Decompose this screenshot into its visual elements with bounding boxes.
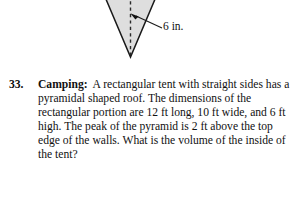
figure-region: 6 in. bbox=[0, 0, 301, 66]
problem-topic-label: Camping: bbox=[38, 78, 88, 91]
pyramid-figure bbox=[0, 0, 301, 66]
dimension-label-6in: 6 in. bbox=[163, 20, 183, 33]
problem-body: Camping:A rectangular tent with straight… bbox=[38, 78, 290, 163]
problem-number: 33. bbox=[9, 78, 24, 92]
